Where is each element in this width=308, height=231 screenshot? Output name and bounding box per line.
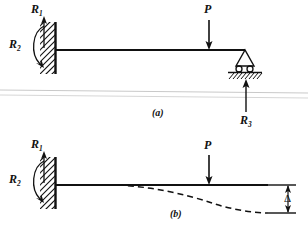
deflection-curve-b bbox=[118, 185, 268, 213]
label-p-b: P bbox=[204, 139, 211, 151]
panel-b bbox=[34, 141, 296, 231]
label-r2-a: R2 bbox=[9, 38, 21, 50]
load-p-arrow-b bbox=[206, 155, 213, 185]
label-r1-a: R1 bbox=[31, 3, 43, 15]
label-r2-b: R2 bbox=[9, 173, 21, 185]
label-p-a: P bbox=[204, 3, 211, 15]
roller-wheel-right-a bbox=[247, 66, 253, 72]
fixed-support-a bbox=[36, 6, 60, 102]
fixed-support-b bbox=[36, 141, 60, 231]
load-p-arrow-a bbox=[206, 20, 213, 50]
caption-b: (b) bbox=[170, 208, 182, 219]
deflection-dimension-b bbox=[268, 185, 296, 213]
reaction-r3-arrow-a bbox=[243, 79, 250, 112]
ground-hatching-a bbox=[229, 73, 262, 79]
label-delta-b: Δ bbox=[284, 192, 291, 204]
roller-support-a bbox=[228, 50, 262, 79]
panel-divider bbox=[0, 90, 308, 98]
label-r1-b: R1 bbox=[31, 138, 43, 150]
roller-wheel-left-a bbox=[236, 66, 242, 72]
roller-triangle-a bbox=[236, 50, 254, 66]
caption-a: (a) bbox=[152, 107, 164, 118]
label-r3-a: R3 bbox=[240, 114, 252, 126]
